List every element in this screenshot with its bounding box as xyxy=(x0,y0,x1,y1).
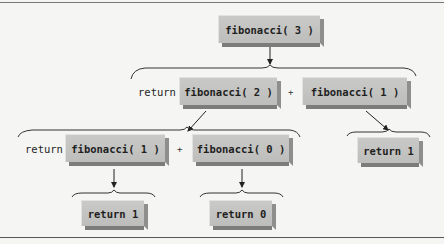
node-label: fibonacci( 1 ) xyxy=(311,86,400,98)
brace-return1 xyxy=(72,190,155,197)
node-return-1-left: return 1 xyxy=(81,200,144,226)
plus-operator-level3: + xyxy=(177,144,182,154)
fibonacci-recursion-diagram: fibonacci( 3 ) return fibonacci( 2 ) + f… xyxy=(0,0,444,244)
plus-operator-level2: + xyxy=(288,87,293,97)
node-fibonacci-1-level3: fibonacci( 1 ) xyxy=(65,134,165,162)
node-label: return 1 xyxy=(363,145,414,157)
node-fibonacci-2: fibonacci( 2 ) xyxy=(179,77,277,105)
node-label: return 1 xyxy=(88,208,139,220)
brace-right-result xyxy=(347,129,430,137)
node-fibonacci-0: fibonacci( 0 ) xyxy=(192,134,289,162)
arrow-fib2-to-level3 xyxy=(188,111,206,131)
node-label: fibonacci( 3 ) xyxy=(225,24,314,36)
node-return-0: return 0 xyxy=(209,200,272,226)
brace-return0 xyxy=(200,190,283,197)
node-label: return 0 xyxy=(216,208,267,220)
node-label: fibonacci( 1 ) xyxy=(71,143,160,155)
node-fibonacci-3: fibonacci( 3 ) xyxy=(218,15,320,43)
return-keyword-level3: return xyxy=(25,143,63,155)
node-label: fibonacci( 2 ) xyxy=(184,86,273,98)
return-keyword-level2: return xyxy=(138,86,176,98)
node-label: fibonacci( 0 ) xyxy=(197,143,286,155)
node-fibonacci-1-level2: fibonacci( 1 ) xyxy=(302,77,407,105)
arrow-fib1-to-result xyxy=(366,111,388,130)
node-return-1-right: return 1 xyxy=(357,137,419,163)
